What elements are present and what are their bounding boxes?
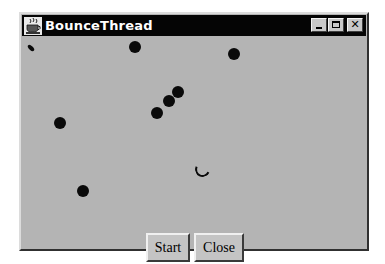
- java-coffee-cup-icon[interactable]: [24, 17, 42, 35]
- ball: [228, 48, 240, 60]
- minimize-icon: [316, 27, 322, 29]
- maximize-button[interactable]: [328, 18, 344, 32]
- window-controls: ✕: [310, 18, 363, 32]
- ball: [172, 86, 184, 98]
- ball: [129, 41, 141, 53]
- title-bar[interactable]: BounceThread ✕: [22, 15, 366, 36]
- close-window-button[interactable]: ✕: [347, 18, 363, 32]
- ball: [151, 107, 163, 119]
- close-icon: ✕: [348, 17, 362, 33]
- maximize-icon: [332, 21, 340, 28]
- minimize-button[interactable]: [311, 18, 327, 32]
- window-title: BounceThread: [45, 18, 153, 33]
- close-button[interactable]: Close: [194, 233, 244, 262]
- ball: [27, 44, 35, 52]
- ball: [77, 185, 89, 197]
- ball: [192, 159, 211, 178]
- start-button[interactable]: Start: [146, 233, 190, 262]
- bounce-canvas: Start Close: [22, 36, 366, 248]
- bounce-thread-window: BounceThread ✕ Start Close: [19, 12, 369, 251]
- ball: [54, 117, 66, 129]
- ball: [163, 95, 175, 107]
